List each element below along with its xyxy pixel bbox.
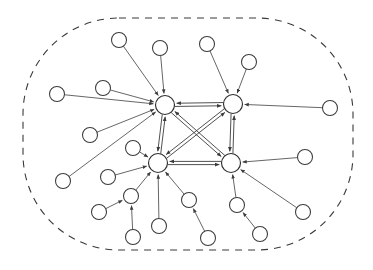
leaf-edge — [237, 69, 246, 93]
leaf-edge — [97, 109, 154, 132]
leaf-node-circle[interactable] — [230, 198, 245, 213]
leaf-node-circle[interactable] — [242, 55, 257, 70]
leaf-edge — [139, 152, 148, 157]
leaf-edge — [161, 55, 164, 93]
leaf-edge — [69, 112, 156, 177]
leaf-node-circle[interactable] — [56, 174, 71, 189]
leaf-node[interactable] — [56, 174, 71, 189]
leaf-node[interactable] — [153, 41, 168, 56]
leaf-node[interactable] — [253, 227, 268, 242]
leaf-node[interactable] — [50, 87, 65, 102]
core-edge — [175, 106, 222, 107]
hub-node-circle[interactable] — [224, 95, 243, 114]
leaf-node-circle[interactable] — [201, 231, 216, 246]
leaf-node[interactable] — [201, 231, 216, 246]
leaf-edge — [123, 46, 158, 95]
leaf-edge — [131, 206, 132, 230]
leaf-edge — [233, 175, 236, 198]
leaf-node-circle[interactable] — [50, 87, 65, 102]
leaf-node-circle[interactable] — [112, 33, 127, 48]
hub-node[interactable] — [156, 96, 175, 115]
leaf-node[interactable] — [92, 205, 107, 220]
leaf-node[interactable] — [200, 37, 215, 52]
leaf-node-circle[interactable] — [200, 37, 215, 52]
leaf-node-circle[interactable] — [126, 230, 141, 245]
leaf-node[interactable] — [124, 189, 139, 204]
leaf-node[interactable] — [242, 55, 257, 70]
leaf-edge — [64, 95, 153, 104]
core-edge — [171, 112, 221, 156]
leaf-edge — [106, 200, 123, 208]
core-edge-reverse — [233, 116, 234, 154]
leaf-edge — [243, 158, 298, 162]
leaf-node[interactable] — [230, 198, 245, 213]
leaf-node-circle[interactable] — [96, 81, 111, 96]
leaf-node[interactable] — [101, 170, 116, 185]
leaf-edge — [115, 166, 147, 175]
leaf-node[interactable] — [298, 150, 313, 165]
leaf-edge — [166, 172, 185, 194]
leaf-edge — [136, 172, 151, 190]
leaf-node-circle[interactable] — [323, 101, 338, 116]
leaf-node-circle[interactable] — [182, 193, 197, 208]
hub-node[interactable] — [149, 154, 168, 173]
leaf-node[interactable] — [96, 81, 111, 96]
leaf-node-circle[interactable] — [124, 189, 139, 204]
hub-node-circle[interactable] — [149, 154, 168, 173]
leaf-node[interactable] — [152, 219, 167, 234]
hub-node-circle[interactable] — [222, 154, 241, 173]
network-diagram-canvas — [0, 0, 373, 270]
leaf-node[interactable] — [296, 205, 311, 220]
leaf-edge — [241, 170, 297, 208]
leaf-node[interactable] — [182, 193, 197, 208]
leaf-node-circle[interactable] — [152, 219, 167, 234]
leaf-node-circle[interactable] — [253, 227, 268, 242]
leaf-edge — [158, 175, 159, 219]
leaf-node[interactable] — [83, 128, 98, 143]
core-edge — [230, 113, 231, 151]
leaf-node[interactable] — [126, 230, 141, 245]
leaf-edge — [193, 209, 204, 232]
leaf-node[interactable] — [126, 141, 141, 156]
leaf-node-circle[interactable] — [296, 205, 311, 220]
leaf-edge — [243, 213, 255, 229]
network-diagram — [0, 0, 373, 270]
leaf-node-layer — [50, 33, 338, 246]
hub-node[interactable] — [224, 95, 243, 114]
leaf-node-circle[interactable] — [101, 170, 116, 185]
leaf-node-circle[interactable] — [83, 128, 98, 143]
leaf-edge — [210, 51, 228, 93]
leaf-node-circle[interactable] — [126, 141, 141, 156]
leaf-node[interactable] — [323, 101, 338, 116]
leaf-node-circle[interactable] — [92, 205, 107, 220]
leaf-node-circle[interactable] — [153, 41, 168, 56]
leaf-node-circle[interactable] — [298, 150, 313, 165]
leaf-node[interactable] — [112, 33, 127, 48]
hub-node-circle[interactable] — [156, 96, 175, 115]
core-edge-reverse — [177, 103, 224, 104]
hub-node[interactable] — [222, 154, 241, 173]
leaf-edge — [245, 104, 323, 107]
